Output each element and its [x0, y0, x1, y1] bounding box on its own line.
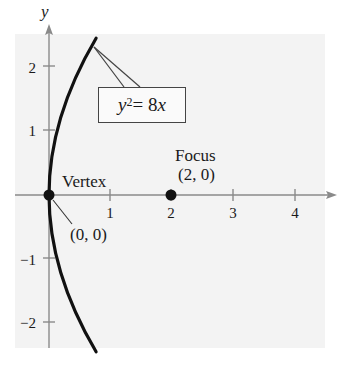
equation-rest: = 8 [133, 94, 158, 116]
equation-var: y [118, 94, 126, 116]
x-tick-label: 4 [291, 206, 299, 221]
y-tick-label: 1 [12, 124, 36, 139]
x-tick-label: 3 [229, 206, 237, 221]
vertex-label: Vertex [62, 173, 106, 190]
x-tick-label: 2 [167, 206, 175, 221]
equation-label-box: y2 = 8x [98, 87, 186, 123]
focus-point [166, 190, 177, 201]
x-tick-label: 1 [106, 206, 114, 221]
y-tick-label: 2 [12, 61, 36, 76]
y-tick-label: −1 [12, 253, 36, 268]
equation-exponent: 2 [127, 95, 133, 110]
vertex-coord-label: (0, 0) [70, 226, 107, 243]
vertex-leader-line [53, 200, 72, 224]
y-axis-label: y [41, 2, 49, 22]
equation-x: x [157, 94, 165, 116]
focus-coord-label: (2, 0) [178, 166, 215, 183]
equation-pointer [94, 47, 140, 87]
focus-label: Focus [175, 147, 216, 164]
vertex-point [44, 190, 55, 201]
parabola-plot [0, 0, 343, 376]
y-tick-label: −2 [12, 316, 36, 331]
